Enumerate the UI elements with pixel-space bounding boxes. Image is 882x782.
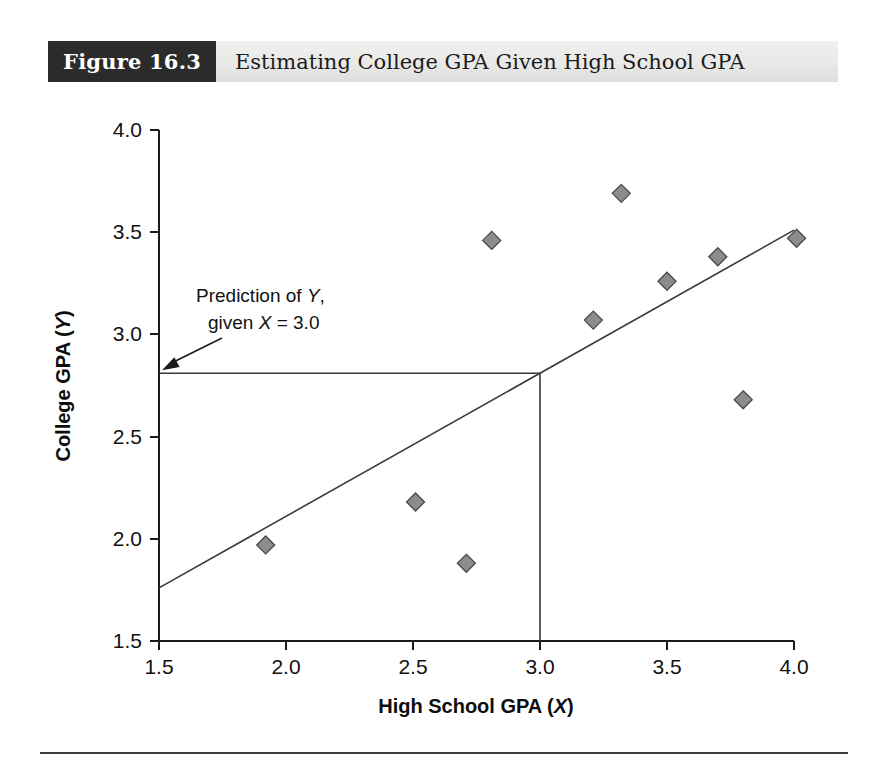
data-point	[257, 536, 275, 554]
y-tick-label: 3.0	[113, 322, 142, 345]
y-tick-label: 3.5	[113, 220, 142, 243]
x-tick-label: 1.5	[144, 655, 173, 678]
x-tick-label: 2.5	[398, 655, 427, 678]
y-tick-label: 2.0	[113, 527, 142, 550]
data-point	[734, 391, 752, 409]
x-tick-label: 2.0	[271, 655, 300, 678]
bottom-divider	[40, 752, 848, 754]
data-point	[709, 248, 727, 266]
data-point	[483, 231, 501, 249]
annotation-line-1: Prediction of Y,	[196, 285, 325, 306]
data-point	[612, 184, 630, 202]
x-axis-tick-labels: 1.52.02.53.03.54.0	[144, 655, 808, 678]
x-tick-label: 3.5	[652, 655, 681, 678]
y-axis-title: College GPA (Y)	[52, 310, 74, 461]
annotation-arrow-shaft	[171, 338, 222, 363]
y-tick-label: 2.5	[113, 425, 142, 448]
scatter-plot-svg: 1.52.02.53.03.54.0 1.52.02.53.03.54.0 Pr…	[0, 0, 882, 782]
x-axis-title: High School GPA (X)	[378, 695, 574, 717]
annotation-line-2: given X = 3.0	[208, 312, 319, 333]
data-point	[407, 493, 425, 511]
y-axis-tick-labels: 1.52.02.53.03.54.0	[113, 118, 142, 652]
data-point	[457, 554, 475, 572]
x-tick-label: 3.0	[525, 655, 554, 678]
figure-container: Figure 16.3 Estimating College GPA Given…	[0, 0, 882, 782]
regression-line	[159, 230, 794, 588]
data-point	[584, 311, 602, 329]
y-tick-label: 1.5	[113, 629, 142, 652]
chart-area: 1.52.02.53.03.54.0 1.52.02.53.03.54.0 Pr…	[0, 0, 882, 782]
data-point	[658, 272, 676, 290]
x-axis-ticks	[159, 641, 794, 650]
x-tick-label: 4.0	[779, 655, 808, 678]
axes-group	[150, 130, 794, 650]
annotation-arrow-head	[162, 357, 180, 370]
annotation-arrow	[162, 338, 222, 370]
y-tick-label: 4.0	[113, 118, 142, 141]
prediction-guides	[159, 373, 540, 641]
y-axis-ticks	[150, 130, 159, 641]
